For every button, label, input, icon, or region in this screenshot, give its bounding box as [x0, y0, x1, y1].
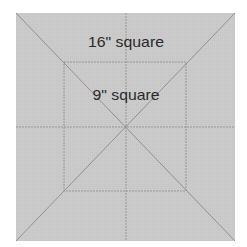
inner-square-label: 9" square: [93, 86, 160, 103]
outer-square-label: 16" square: [88, 33, 164, 50]
square-diagram: 16" square 9" square: [0, 0, 247, 247]
